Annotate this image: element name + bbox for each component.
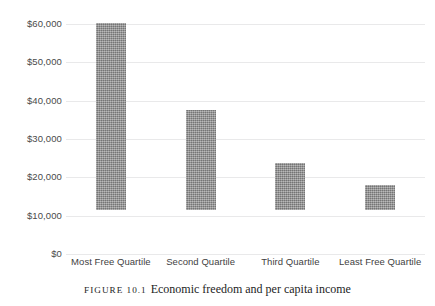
figure-caption: Figure 10.1Economic freedom and per capi… xyxy=(0,282,435,297)
bar xyxy=(365,185,395,210)
x-axis-category-label: Second Quartile xyxy=(151,256,251,268)
bar xyxy=(96,23,126,210)
x-axis-category-label: Third Quartile xyxy=(240,256,340,268)
bar xyxy=(275,163,305,210)
x-axis-category-label: Most Free Quartile xyxy=(61,256,161,268)
bar-series xyxy=(0,0,435,262)
figure-number: Figure 10.1 xyxy=(84,285,147,295)
figure-container: $0$10,000$20,000$30,000$40,000$50,000$60… xyxy=(0,0,435,306)
figure-caption-text: Economic freedom and per capita income xyxy=(151,282,351,296)
bar xyxy=(186,110,216,210)
x-axis-category-label: Least Free Quartile xyxy=(330,256,430,268)
chart-plot-area: $0$10,000$20,000$30,000$40,000$50,000$60… xyxy=(0,0,435,262)
x-axis-category-labels: Most Free QuartileSecond QuartileThird Q… xyxy=(0,256,435,272)
